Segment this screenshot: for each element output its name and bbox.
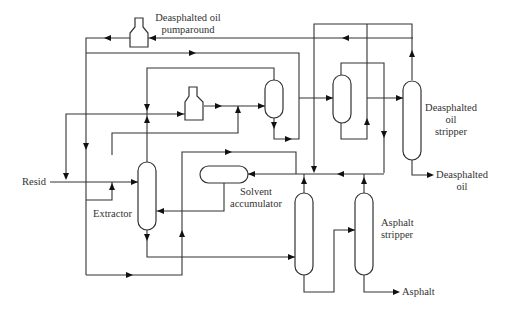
asphalt-product-label: Asphalt: [402, 286, 435, 298]
pumparound-label-line2: pumparound: [152, 24, 224, 36]
dao-product-line: [412, 160, 428, 175]
recycle-pump-icon: [185, 87, 203, 120]
pumparound-pump-icon: [130, 18, 148, 47]
dao-stripper-label-line2: oil: [420, 114, 482, 126]
solvent-accumulator-drum: [200, 166, 248, 183]
asphalt-product-line: [364, 275, 393, 292]
arrow-down-icon: [63, 173, 69, 180]
arrow-right-icon: [131, 179, 138, 185]
arrow-down-icon: [144, 234, 150, 241]
arrow-right-icon: [285, 136, 292, 142]
arrow-right-icon: [215, 103, 222, 109]
arrow-left-icon: [342, 35, 349, 41]
arrow-right-icon: [126, 272, 133, 278]
dao-stripper-label: Deasphalted oil stripper: [420, 102, 482, 138]
arrow-up-icon: [179, 230, 185, 237]
arrow-up-icon: [235, 106, 241, 113]
arrow-right-icon: [288, 254, 295, 260]
arrow-right-icon: [326, 95, 333, 101]
arrow-left-icon: [248, 171, 255, 177]
extractor-label: Extractor: [93, 208, 132, 220]
arrow-right-icon: [396, 95, 403, 101]
arrow-left-icon: [104, 35, 111, 41]
arrow-down-icon: [83, 143, 89, 150]
arrow-down-icon: [311, 166, 317, 173]
arrow-down-icon: [381, 131, 387, 138]
dao-separator-vessel: [265, 80, 283, 118]
arrow-right-icon: [189, 50, 196, 56]
dao-product-label-line2: oil: [432, 181, 492, 193]
asphalt-stripper-label: Asphalt stripper: [381, 217, 414, 241]
pumparound-out-line: [86, 38, 130, 275]
dao-stripper-column: [403, 81, 421, 160]
extractor-bottom-line: [147, 230, 295, 257]
dao-flash-vessel: [333, 75, 351, 123]
arrow-right-icon: [393, 289, 400, 295]
resid-label: Resid: [22, 176, 46, 188]
solvent-to-extractor-line: [156, 183, 224, 211]
arrow-down-icon: [271, 122, 277, 129]
equipment: [130, 18, 421, 275]
asphalt-flash-column: [295, 193, 313, 275]
extractor-column: [138, 162, 156, 230]
dao-stripper-label-line1: Deasphalted: [420, 102, 482, 114]
solvent-accumulator-label: Solvent accumulator: [224, 186, 288, 210]
left-loop-inner: [86, 182, 112, 200]
dao-stripper-label-line3: stripper: [420, 126, 482, 138]
arrow-up-icon: [144, 116, 150, 123]
separator-overhead-line: [147, 68, 274, 114]
arrow-left-icon: [157, 208, 164, 214]
process-flow-diagram: [0, 0, 508, 311]
arrow-left-icon: [337, 171, 344, 177]
dao-product-label-line1: Deasphalted: [432, 169, 492, 181]
arrow-down-icon: [144, 104, 150, 111]
pumparound-label-line1: Deasphalted oil: [152, 12, 224, 24]
arrow-up-icon: [301, 177, 307, 184]
dao-product-label: Deasphalted oil: [432, 169, 492, 193]
arrow-up-icon: [364, 118, 370, 125]
flow-arrows: [63, 35, 434, 295]
arrow-right-icon: [258, 103, 265, 109]
asphalt-stripper-label-line2: stripper: [381, 229, 414, 241]
solvent-accumulator-label-line1: Solvent: [224, 186, 288, 198]
arrow-up-icon: [409, 50, 415, 57]
arrow-up-icon: [109, 183, 115, 190]
arrow-right-icon: [177, 111, 184, 117]
asphalt-stripper-column: [355, 193, 373, 275]
asphalt-stripper-label-line1: Asphalt: [381, 217, 414, 229]
arrow-right-icon: [348, 227, 355, 233]
pumparound-return-line: [362, 24, 412, 80]
pumparound-label: Deasphalted oil pumparound: [152, 12, 224, 36]
solvent-accumulator-label-line2: accumulator: [224, 198, 288, 210]
arrow-right-icon: [225, 149, 232, 155]
arrow-up-icon: [361, 177, 367, 184]
bypass-line: [112, 106, 238, 155]
